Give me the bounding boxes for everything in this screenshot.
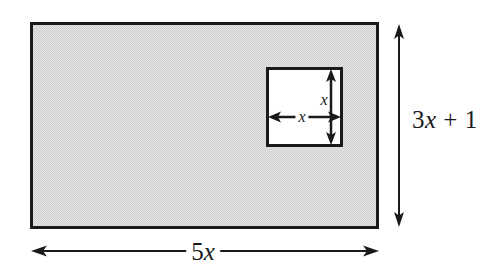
width-label: 5x: [186, 239, 220, 264]
width-label-variable: x: [204, 238, 215, 265]
inner-height-label: x: [319, 92, 328, 108]
width-label-coefficient: 5: [191, 238, 204, 265]
inner-height-label-variable: x: [320, 91, 327, 108]
inner-width-label: x: [295, 109, 308, 125]
height-dimension-arrow: [394, 24, 404, 227]
inner-width-label-variable: x: [298, 108, 305, 125]
height-label-suffix: + 1: [437, 106, 478, 133]
height-label-variable: x: [425, 106, 437, 133]
height-label-coefficient: 3: [412, 106, 425, 133]
height-label: 3x + 1: [412, 107, 478, 132]
